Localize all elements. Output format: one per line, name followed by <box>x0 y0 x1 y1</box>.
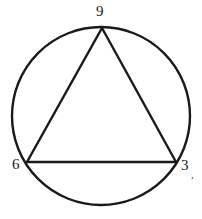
comma-artifact-mark: , <box>191 169 194 180</box>
vertex-label-top: 9 <box>96 4 104 19</box>
vertex-label-bottom-right: 3 <box>181 158 189 173</box>
inscribed-triangle <box>27 28 176 162</box>
geometry-figure <box>0 0 202 219</box>
figure-canvas: 9 6 3 , <box>0 0 202 219</box>
vertex-label-bottom-left: 6 <box>12 157 20 172</box>
circumscribed-circle <box>12 27 190 205</box>
